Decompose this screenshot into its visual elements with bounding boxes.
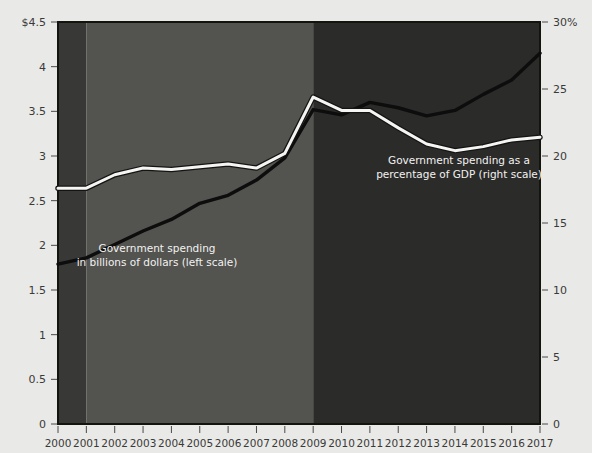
left-axis-tick-label: 0 bbox=[39, 418, 46, 431]
x-axis-tick-label: 2016 bbox=[498, 437, 525, 449]
left-axis-tick-label: 2.5 bbox=[29, 195, 47, 208]
left-axis-tick-label: 2 bbox=[39, 239, 46, 252]
left-axis-tick-label: 3 bbox=[39, 150, 46, 163]
right-axis-tick-label: 20 bbox=[553, 150, 567, 163]
x-axis-tick-label: 2001 bbox=[73, 437, 100, 449]
x-axis-labels: 2000200120022003200420052006200720082009… bbox=[45, 437, 554, 449]
annotation-line: in billions of dollars (left scale) bbox=[77, 256, 238, 268]
chart-container: 00.511.522.533.54$4.5 051015202530% 2000… bbox=[0, 0, 592, 453]
left-axis-tick-label: 4 bbox=[39, 61, 46, 74]
x-axis-tick-label: 2010 bbox=[328, 437, 355, 449]
x-axis-tick-label: 2004 bbox=[158, 437, 185, 449]
band-2000-2001 bbox=[58, 22, 86, 424]
x-axis-tick-label: 2005 bbox=[186, 437, 213, 449]
band-2001-2009 bbox=[86, 22, 313, 424]
right-axis-tick-label: 5 bbox=[553, 351, 560, 364]
right-axis-tick-label: 25 bbox=[553, 83, 567, 96]
left-axis-tick-label: 3.5 bbox=[29, 105, 47, 118]
x-axis-tick-label: 2008 bbox=[271, 437, 298, 449]
x-axis-tick-label: 2006 bbox=[215, 437, 242, 449]
right-axis-tick-label: 0 bbox=[553, 418, 560, 431]
x-axis-tick-label: 2014 bbox=[442, 437, 469, 449]
x-axis-tick-label: 2017 bbox=[527, 437, 554, 449]
right-axis-tick-label: 15 bbox=[553, 217, 567, 230]
right-axis-tick-label: 30% bbox=[553, 16, 577, 29]
x-axis-tick-label: 2013 bbox=[413, 437, 440, 449]
annotation-line: Government spending bbox=[99, 242, 216, 254]
x-axis-tick-label: 2015 bbox=[470, 437, 497, 449]
left-axis-tick-label: 1 bbox=[39, 329, 46, 342]
x-axis-tick-label: 2000 bbox=[45, 437, 72, 449]
shaded-bands bbox=[58, 22, 540, 424]
x-axis-tick-label: 2007 bbox=[243, 437, 270, 449]
annotation-line: percentage of GDP (right scale) bbox=[376, 168, 542, 180]
left-axis-tick-label: $4.5 bbox=[22, 16, 47, 29]
x-axis-tick-label: 2003 bbox=[130, 437, 157, 449]
government-spending-line-chart: 00.511.522.533.54$4.5 051015202530% 2000… bbox=[0, 0, 592, 453]
x-axis-tick-label: 2009 bbox=[300, 437, 327, 449]
left-axis-tick-label: 1.5 bbox=[29, 284, 47, 297]
annotation-line: Government spending as a bbox=[388, 154, 530, 166]
x-axis-tick-label: 2011 bbox=[357, 437, 384, 449]
left-axis-tick-label: 0.5 bbox=[29, 373, 47, 386]
x-axis-tick-label: 2012 bbox=[385, 437, 412, 449]
x-axis-tick-label: 2002 bbox=[101, 437, 128, 449]
right-axis-tick-label: 10 bbox=[553, 284, 567, 297]
